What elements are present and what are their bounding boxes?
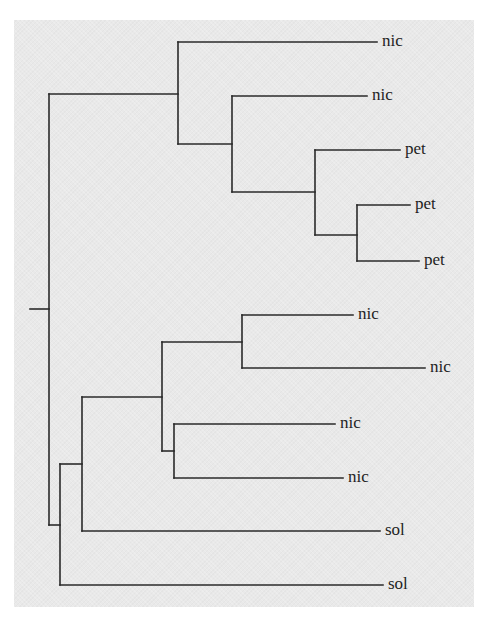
tree-labels: nicnicpetpetpetnicnicnicnicsolsol [340, 31, 451, 593]
leaf-label: pet [415, 194, 436, 213]
leaf-label: nic [348, 467, 369, 486]
leaf-label: nic [358, 304, 379, 323]
leaf-label: sol [388, 574, 408, 593]
phylogenetic-tree: nicnicpetpetpetnicnicnicnicsolsol [0, 0, 488, 623]
leaf-label: nic [340, 413, 361, 432]
leaf-label: nic [430, 357, 451, 376]
leaf-label: pet [405, 139, 426, 158]
leaf-label: nic [372, 85, 393, 104]
leaf-label: nic [382, 31, 403, 50]
leaf-label: sol [385, 520, 405, 539]
leaf-label: pet [424, 250, 445, 269]
